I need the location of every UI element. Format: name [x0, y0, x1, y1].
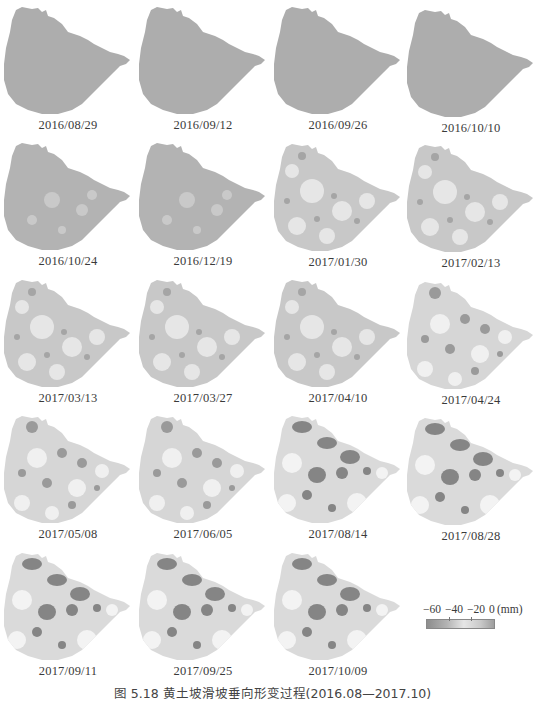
deformation-map-panel: 2016/10/24 — [2, 140, 134, 270]
deformation-map-image — [2, 140, 134, 252]
panel-date-label: 2017/03/27 — [137, 391, 269, 406]
panel-date-label: 2017/01/30 — [272, 255, 404, 270]
panel-date-label: 2016/09/12 — [137, 118, 269, 133]
deformation-map-panel: 2017/02/13 — [405, 142, 537, 272]
deformation-map-image — [405, 7, 537, 119]
deformation-map-image — [137, 550, 269, 662]
deformation-map-image — [2, 550, 134, 662]
panel-date-label: 2017/04/10 — [272, 391, 404, 406]
deformation-map-panel: 2017/03/27 — [137, 277, 269, 407]
panel-date-label: 2017/02/13 — [405, 256, 537, 271]
deformation-map-image — [272, 277, 404, 389]
panel-date-label: 2016/10/24 — [2, 254, 134, 269]
deformation-map-panel: 2016/09/12 — [137, 4, 269, 134]
panel-date-label: 2017/10/09 — [272, 664, 404, 679]
deformation-map-panel: 2017/08/14 — [272, 413, 404, 543]
deformation-map-panel: 2017/04/24 — [405, 279, 537, 409]
panel-date-label: 2017/09/25 — [137, 664, 269, 679]
deformation-map-panel: 2017/10/09 — [272, 550, 404, 680]
deformation-map-panel: 2017/05/08 — [2, 413, 134, 543]
panel-date-label: 2017/06/05 — [137, 527, 269, 542]
panel-date-label: 2017/09/11 — [2, 664, 134, 679]
deformation-map-image — [2, 413, 134, 525]
deformation-map-image — [2, 277, 134, 389]
deformation-map-image — [137, 413, 269, 525]
deformation-map-panel: 2017/09/11 — [2, 550, 134, 680]
deformation-map-panel: 2016/12/19 — [137, 140, 269, 270]
deformation-map-image — [137, 277, 269, 389]
deformation-map-panel: 2017/03/13 — [2, 277, 134, 407]
panel-date-label: 2017/08/14 — [272, 527, 404, 542]
panel-date-label: 2016/09/26 — [272, 118, 404, 133]
deformation-map-panel: 2017/01/30 — [272, 141, 404, 271]
deformation-map-panel: 2017/09/25 — [137, 550, 269, 680]
deformation-map-panel: 2017/04/10 — [272, 277, 404, 407]
deformation-map-image — [137, 140, 269, 252]
figure-caption: 图 5.18 黄土坡滑坡垂向形变过程(2016.08—2017.10) — [0, 683, 545, 702]
deformation-map-panel: 2016/10/10 — [405, 7, 537, 137]
panel-date-label: 2016/12/19 — [137, 254, 269, 269]
deformation-map-panel: 2016/09/26 — [272, 4, 404, 134]
colorbar-tick-mark — [471, 617, 472, 621]
panel-date-label: 2017/05/08 — [2, 527, 134, 542]
deformation-map-panel: 2016/08/29 — [2, 4, 134, 134]
deformation-map-image — [405, 415, 537, 527]
deformation-map-image — [272, 413, 404, 525]
colorbar-tick-label: −20 — [467, 603, 485, 615]
colorbar-unit-label: (mm) — [497, 603, 523, 615]
deformation-map-image — [272, 141, 404, 253]
panel-date-label: 2016/10/10 — [405, 121, 537, 136]
panel-date-label: 2017/04/24 — [405, 393, 537, 408]
panel-date-label: 2017/08/28 — [405, 529, 537, 544]
deformation-map-image — [137, 4, 269, 116]
deformation-map-image — [272, 550, 404, 662]
colorbar-gradient — [426, 619, 495, 629]
deformation-map-panel: 2017/08/28 — [405, 415, 537, 545]
deformation-map-image — [272, 4, 404, 116]
colorbar-tick-label: −60 — [423, 603, 441, 615]
colorbar-tick-mark — [449, 617, 450, 621]
colorbar-tick-label: 0 — [489, 603, 495, 615]
panel-date-label: 2016/08/29 — [2, 118, 134, 133]
colorbar-tick-label: −40 — [445, 603, 463, 615]
colorbar-legend: −60 −40 −20 0 (mm) — [423, 603, 533, 643]
deformation-map-image — [405, 279, 537, 391]
deformation-map-panel: 2017/06/05 — [137, 413, 269, 543]
deformation-map-image — [2, 4, 134, 116]
deformation-map-image — [405, 142, 537, 254]
panel-date-label: 2017/03/13 — [2, 391, 134, 406]
